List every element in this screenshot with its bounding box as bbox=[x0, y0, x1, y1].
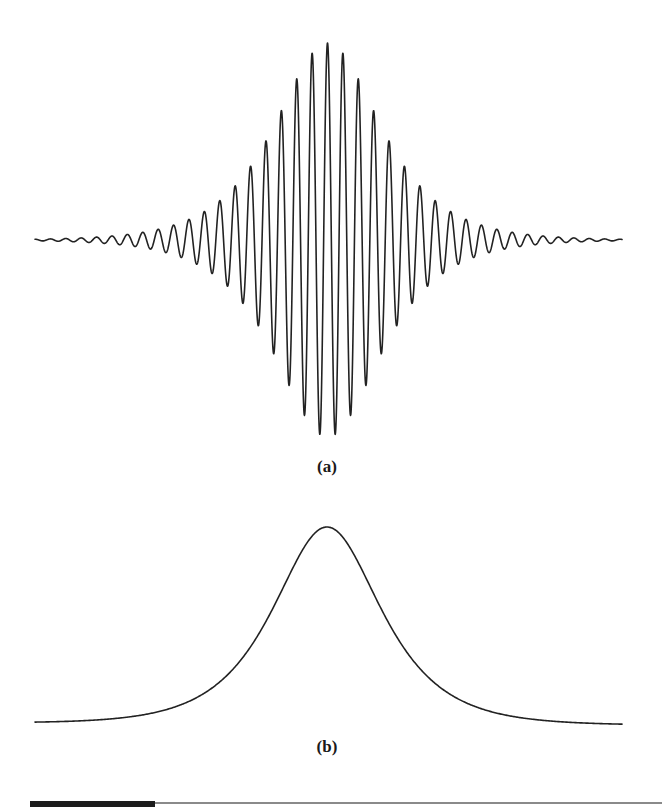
wave-packet-curve bbox=[35, 43, 622, 434]
panel-label-b: (b) bbox=[287, 737, 367, 757]
footer-rule-thin bbox=[155, 802, 662, 804]
footer-rule-thick bbox=[30, 801, 155, 807]
envelope-curve bbox=[35, 527, 622, 724]
figure-canvas bbox=[0, 0, 662, 808]
panel-label-a: (a) bbox=[287, 457, 367, 477]
